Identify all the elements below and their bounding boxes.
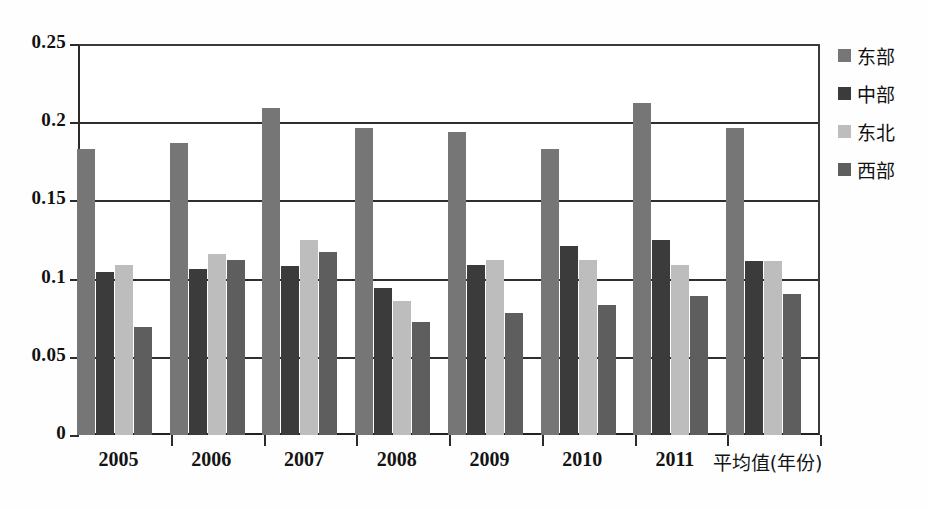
y-tick-label: 0.1 bbox=[0, 266, 66, 288]
y-tick-label: 0.25 bbox=[0, 31, 66, 53]
bars-layer bbox=[78, 44, 820, 435]
bar-东部-平均值(年份)[interactable] bbox=[726, 128, 744, 435]
bar-中部-2009[interactable] bbox=[467, 265, 485, 435]
legend-label: 东部 bbox=[857, 42, 895, 69]
bar-东北-平均值(年份)[interactable] bbox=[764, 261, 782, 435]
bar-中部-2005[interactable] bbox=[96, 272, 114, 435]
x-tick-mark bbox=[264, 435, 266, 446]
legend-label: 中部 bbox=[857, 80, 895, 107]
legend-swatch-icon bbox=[838, 163, 851, 176]
bar-东北-2008[interactable] bbox=[393, 301, 411, 436]
x-tick-label-2008: 2008 bbox=[377, 448, 417, 471]
legend-item-东部[interactable]: 东部 bbox=[838, 36, 928, 74]
bar-东部-2006[interactable] bbox=[170, 143, 188, 435]
bar-中部-2006[interactable] bbox=[189, 269, 207, 435]
bar-西部-2008[interactable] bbox=[412, 322, 430, 435]
bar-中部-2007[interactable] bbox=[281, 266, 299, 435]
bar-group bbox=[262, 44, 337, 435]
bar-东北-2006[interactable] bbox=[208, 254, 226, 435]
bar-西部-平均值(年份)[interactable] bbox=[783, 294, 801, 435]
y-tick-label: 0.05 bbox=[0, 344, 66, 366]
x-tick-label-平均值(年份): 平均值(年份) bbox=[713, 448, 823, 475]
bar-中部-平均值(年份)[interactable] bbox=[745, 261, 763, 435]
y-tick-label: 0 bbox=[0, 422, 66, 444]
legend-item-中部[interactable]: 中部 bbox=[838, 74, 928, 112]
bar-东部-2011[interactable] bbox=[633, 103, 651, 435]
x-tick-mark bbox=[449, 435, 451, 446]
bar-东部-2005[interactable] bbox=[77, 149, 95, 435]
chart-legend: 东部中部东北西部 bbox=[838, 36, 928, 188]
legend-item-西部[interactable]: 西部 bbox=[838, 150, 928, 188]
bar-东北-2007[interactable] bbox=[300, 240, 318, 436]
x-tick-mark bbox=[727, 435, 729, 446]
x-tick-label-2006: 2006 bbox=[191, 448, 231, 471]
bar-group bbox=[726, 44, 801, 435]
bar-group bbox=[541, 44, 616, 435]
bar-中部-2008[interactable] bbox=[374, 288, 392, 435]
bar-东北-2010[interactable] bbox=[579, 260, 597, 435]
x-tick-mark bbox=[171, 435, 173, 446]
bar-东部-2008[interactable] bbox=[355, 128, 373, 435]
bar-东部-2010[interactable] bbox=[541, 149, 559, 435]
y-tick-mark bbox=[70, 435, 79, 437]
bar-西部-2009[interactable] bbox=[505, 313, 523, 435]
legend-swatch-icon bbox=[838, 87, 851, 100]
y-tick-label: 0.2 bbox=[0, 109, 66, 131]
bar-西部-2011[interactable] bbox=[690, 296, 708, 435]
bar-东北-2005[interactable] bbox=[115, 265, 133, 435]
x-tick-label-2009: 2009 bbox=[469, 448, 509, 471]
legend-item-东北[interactable]: 东北 bbox=[838, 112, 928, 150]
y-tick-label: 0.15 bbox=[0, 187, 66, 209]
bar-西部-2010[interactable] bbox=[598, 305, 616, 435]
legend-label: 东北 bbox=[857, 118, 895, 145]
bar-东部-2007[interactable] bbox=[262, 108, 280, 435]
x-tick-label-2011: 2011 bbox=[655, 448, 694, 471]
legend-label: 西部 bbox=[857, 156, 895, 183]
bar-中部-2011[interactable] bbox=[652, 240, 670, 436]
x-tick-label-2010: 2010 bbox=[562, 448, 602, 471]
x-tick-label-2007: 2007 bbox=[284, 448, 324, 471]
bar-group bbox=[448, 44, 523, 435]
bar-group bbox=[77, 44, 152, 435]
bar-西部-2006[interactable] bbox=[227, 260, 245, 435]
bar-group bbox=[355, 44, 430, 435]
x-tick-mark bbox=[820, 435, 822, 446]
x-tick-label-2005: 2005 bbox=[98, 448, 138, 471]
bar-东部-2009[interactable] bbox=[448, 132, 466, 435]
bar-西部-2005[interactable] bbox=[134, 327, 152, 435]
bar-group bbox=[170, 44, 245, 435]
y-axis: 0.250.20.150.10.050 bbox=[0, 0, 74, 509]
x-tick-mark bbox=[542, 435, 544, 446]
chart-page: 0.250.20.150.10.050 20052006200720082009… bbox=[0, 0, 928, 509]
legend-swatch-icon bbox=[838, 125, 851, 138]
x-tick-mark bbox=[356, 435, 358, 446]
bar-西部-2007[interactable] bbox=[319, 252, 337, 435]
bar-group bbox=[633, 44, 708, 435]
bar-中部-2010[interactable] bbox=[560, 246, 578, 435]
bar-东北-2011[interactable] bbox=[671, 265, 689, 435]
legend-swatch-icon bbox=[838, 49, 851, 62]
bar-东北-2009[interactable] bbox=[486, 260, 504, 435]
x-tick-mark bbox=[635, 435, 637, 446]
